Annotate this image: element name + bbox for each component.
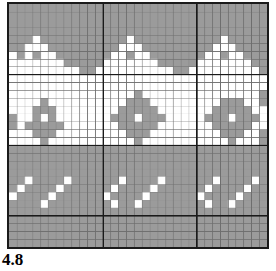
figure-number-label: 4.8 — [2, 250, 23, 270]
pattern-grid-canvas — [9, 4, 267, 247]
colorwork-chart-grid — [7, 2, 269, 249]
figure-container: 4.8 — [0, 0, 276, 271]
